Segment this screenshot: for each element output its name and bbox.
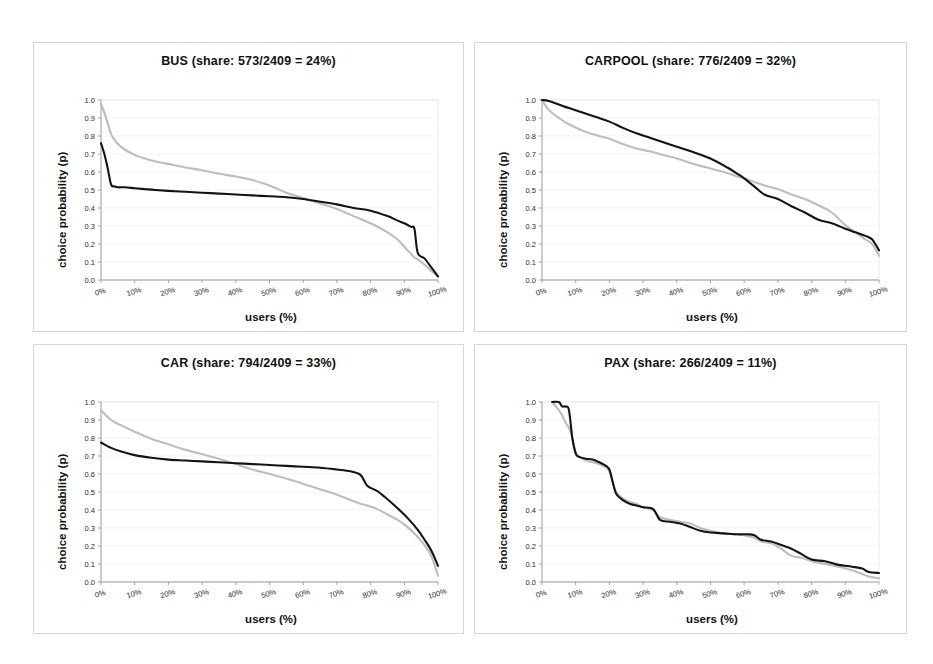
- x-axis-tick-label: 20%: [159, 587, 176, 600]
- y-axis-tick-label: 0.0: [526, 276, 536, 285]
- x-axis-tick-label: 30%: [634, 285, 651, 298]
- y-axis-tick-label: 0.5: [85, 488, 95, 497]
- x-axis-tick-label: 80%: [361, 587, 378, 600]
- x-axis-tick-label: 30%: [193, 285, 210, 298]
- y-axis-tick-label: 0.9: [85, 114, 95, 123]
- chart-panel-car: CAR (share: 794/2409 = 33%) choice proba…: [33, 344, 464, 634]
- x-axis-tick-label: 90%: [836, 285, 853, 298]
- y-axis-tick-label: 1.0: [526, 96, 536, 105]
- x-axis-tick-label: 70%: [769, 285, 786, 298]
- x-axis-tick-label: 30%: [634, 587, 651, 600]
- x-axis-tick-label: 40%: [667, 587, 684, 600]
- x-axis-tick-label: 100%: [868, 284, 889, 299]
- x-axis-tick-label: 0%: [94, 588, 107, 600]
- x-axis-tick-label: 20%: [600, 587, 617, 600]
- x-axis-tick-label: 80%: [802, 587, 819, 600]
- chart-panel-bus: BUS (share: 573/2409 = 24%) choice proba…: [33, 42, 464, 332]
- x-axis-tick-label: 50%: [260, 587, 277, 600]
- x-axis-tick-label: 40%: [226, 587, 243, 600]
- y-axis-tick-label: 0.1: [85, 258, 95, 267]
- y-axis-tick-label: 0.5: [85, 186, 95, 195]
- x-axis-tick-label: 100%: [868, 586, 889, 601]
- y-axis-tick-label: 1.0: [85, 398, 95, 407]
- y-axis-tick-label: 0.5: [526, 488, 536, 497]
- plot-area-bus: choice probability (p) 1.00.90.80.70.60.…: [34, 43, 463, 331]
- y-axis-tick-label: 0.1: [526, 560, 536, 569]
- x-axis-label-carpool: users (%): [542, 311, 882, 323]
- y-axis-tick-label: 0.8: [85, 434, 95, 443]
- y-axis-tick-label: 0.3: [85, 222, 95, 231]
- y-axis-tick-label: 0.2: [85, 542, 95, 551]
- chart-svg-bus: 1.00.90.80.70.60.50.40.30.20.10.00%10%20…: [34, 43, 465, 333]
- x-axis-tick-label: 0%: [535, 588, 548, 600]
- series-line-observed: [552, 402, 879, 573]
- series-line-predicted: [552, 402, 879, 578]
- x-axis-tick-label: 10%: [125, 587, 142, 600]
- x-axis-tick-label: 30%: [193, 587, 210, 600]
- y-axis-tick-label: 0.6: [526, 470, 536, 479]
- x-axis-tick-label: 90%: [836, 587, 853, 600]
- y-axis-tick-label: 0.2: [526, 542, 536, 551]
- x-axis-label-bus: users (%): [101, 311, 441, 323]
- x-axis-tick-label: 60%: [735, 285, 752, 298]
- y-axis-tick-label: 0.4: [526, 204, 536, 213]
- x-axis-tick-label: 10%: [566, 285, 583, 298]
- x-axis-tick-label: 0%: [94, 286, 107, 298]
- y-axis-tick-label: 0.9: [526, 114, 536, 123]
- x-axis-tick-label: 0%: [535, 286, 548, 298]
- x-axis-tick-label: 50%: [701, 285, 718, 298]
- y-axis-tick-label: 0.6: [85, 168, 95, 177]
- x-axis-tick-label: 10%: [566, 587, 583, 600]
- x-axis-tick-label: 80%: [361, 285, 378, 298]
- x-axis-tick-label: 40%: [667, 285, 684, 298]
- series-line-observed: [101, 143, 438, 276]
- chart-svg-car: 1.00.90.80.70.60.50.40.30.20.10.00%10%20…: [34, 345, 465, 635]
- x-axis-tick-label: 100%: [427, 586, 448, 601]
- y-axis-tick-label: 0.0: [85, 578, 95, 587]
- x-axis-tick-label: 100%: [427, 284, 448, 299]
- x-axis-tick-label: 70%: [769, 587, 786, 600]
- x-axis-tick-label: 20%: [159, 285, 176, 298]
- x-axis-tick-label: 70%: [328, 285, 345, 298]
- chart-panel-carpool: CARPOOL (share: 776/2409 = 32%) choice p…: [474, 42, 907, 332]
- series-line-predicted: [542, 100, 879, 256]
- y-axis-tick-label: 0.7: [526, 452, 536, 461]
- plot-area-pax: choice probability (p) 1.00.90.80.70.60.…: [475, 345, 906, 633]
- y-axis-tick-label: 0.5: [526, 186, 536, 195]
- y-axis-tick-label: 0.4: [85, 204, 95, 213]
- y-axis-tick-label: 0.8: [526, 132, 536, 141]
- y-axis-tick-label: 0.3: [526, 524, 536, 533]
- x-axis-tick-label: 80%: [802, 285, 819, 298]
- y-axis-tick-label: 0.8: [85, 132, 95, 141]
- y-axis-tick-label: 0.1: [526, 258, 536, 267]
- x-axis-tick-label: 70%: [328, 587, 345, 600]
- x-axis-label-pax: users (%): [542, 613, 882, 625]
- x-axis-tick-label: 90%: [395, 587, 412, 600]
- x-axis-tick-label: 50%: [260, 285, 277, 298]
- series-line-observed: [542, 100, 879, 250]
- y-axis-tick-label: 0.1: [85, 560, 95, 569]
- y-axis-tick-label: 0.7: [526, 150, 536, 159]
- series-line-observed: [101, 443, 438, 566]
- x-axis-tick-label: 20%: [600, 285, 617, 298]
- y-axis-tick-label: 0.8: [526, 434, 536, 443]
- plot-area-car: choice probability (p) 1.00.90.80.70.60.…: [34, 345, 463, 633]
- y-axis-tick-label: 0.4: [526, 506, 536, 515]
- y-axis-tick-label: 0.4: [85, 506, 95, 515]
- x-axis-tick-label: 60%: [294, 285, 311, 298]
- y-axis-tick-label: 0.9: [85, 416, 95, 425]
- x-axis-tick-label: 60%: [735, 587, 752, 600]
- y-axis-tick-label: 0.3: [526, 222, 536, 231]
- y-axis-tick-label: 1.0: [85, 96, 95, 105]
- y-axis-tick-label: 0.9: [526, 416, 536, 425]
- x-axis-tick-label: 40%: [226, 285, 243, 298]
- y-axis-tick-label: 0.6: [526, 168, 536, 177]
- y-axis-tick-label: 1.0: [526, 398, 536, 407]
- series-line-predicted: [101, 410, 438, 576]
- x-axis-label-car: users (%): [101, 613, 441, 625]
- chart-svg-pax: 1.00.90.80.70.60.50.40.30.20.10.00%10%20…: [475, 345, 908, 635]
- y-axis-tick-label: 0.3: [85, 524, 95, 533]
- x-axis-tick-label: 60%: [294, 587, 311, 600]
- y-axis-tick-label: 0.2: [526, 240, 536, 249]
- y-axis-tick-label: 0.0: [526, 578, 536, 587]
